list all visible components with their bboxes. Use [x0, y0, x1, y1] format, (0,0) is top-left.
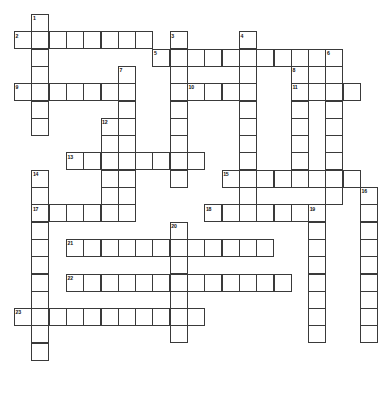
crossword-cell[interactable]	[343, 170, 361, 188]
crossword-cell[interactable]	[31, 204, 49, 222]
crossword-cell[interactable]	[83, 239, 101, 257]
crossword-cell[interactable]	[187, 274, 205, 292]
crossword-cell[interactable]	[239, 66, 257, 84]
crossword-cell[interactable]	[83, 152, 101, 170]
crossword-cell[interactable]	[308, 49, 326, 67]
crossword-cell[interactable]	[325, 49, 343, 67]
crossword-cell[interactable]	[170, 291, 188, 309]
crossword-cell[interactable]	[170, 170, 188, 188]
crossword-cell[interactable]	[83, 83, 101, 101]
crossword-cell[interactable]	[170, 101, 188, 119]
crossword-cell[interactable]	[187, 83, 205, 101]
crossword-cell[interactable]	[152, 274, 170, 292]
crossword-cell[interactable]	[135, 274, 153, 292]
crossword-cell[interactable]	[118, 152, 136, 170]
crossword-cell[interactable]	[49, 308, 67, 326]
crossword-cell[interactable]	[101, 152, 119, 170]
crossword-cell[interactable]	[360, 187, 378, 205]
crossword-cell[interactable]	[170, 274, 188, 292]
crossword-cell[interactable]	[360, 308, 378, 326]
crossword-cell[interactable]	[135, 152, 153, 170]
crossword-cell[interactable]	[31, 118, 49, 136]
crossword-cell[interactable]	[31, 291, 49, 309]
crossword-cell[interactable]	[239, 31, 257, 49]
crossword-cell[interactable]	[14, 31, 32, 49]
crossword-cell[interactable]	[31, 187, 49, 205]
crossword-cell[interactable]	[118, 66, 136, 84]
crossword-cell[interactable]	[118, 135, 136, 153]
crossword-cell[interactable]	[291, 101, 309, 119]
crossword-cell[interactable]	[152, 49, 170, 67]
crossword-cell[interactable]	[31, 274, 49, 292]
crossword-cell[interactable]	[49, 31, 67, 49]
crossword-cell[interactable]	[118, 187, 136, 205]
crossword-cell[interactable]	[118, 31, 136, 49]
crossword-cell[interactable]	[239, 101, 257, 119]
crossword-cell[interactable]	[83, 308, 101, 326]
crossword-cell[interactable]	[170, 135, 188, 153]
crossword-cell[interactable]	[170, 49, 188, 67]
crossword-cell[interactable]	[204, 204, 222, 222]
crossword-cell[interactable]	[308, 325, 326, 343]
crossword-cell[interactable]	[31, 325, 49, 343]
crossword-cell[interactable]	[308, 222, 326, 240]
crossword-cell[interactable]	[325, 101, 343, 119]
crossword-cell[interactable]	[291, 66, 309, 84]
crossword-cell[interactable]	[83, 204, 101, 222]
crossword-cell[interactable]	[360, 222, 378, 240]
crossword-cell[interactable]	[239, 135, 257, 153]
crossword-cell[interactable]	[325, 118, 343, 136]
crossword-cell[interactable]	[118, 274, 136, 292]
crossword-cell[interactable]	[291, 170, 309, 188]
crossword-cell[interactable]	[239, 204, 257, 222]
crossword-cell[interactable]	[308, 291, 326, 309]
crossword-cell[interactable]	[66, 239, 84, 257]
crossword-cell[interactable]	[118, 170, 136, 188]
crossword-cell[interactable]	[274, 204, 292, 222]
crossword-cell[interactable]	[170, 152, 188, 170]
crossword-cell[interactable]	[31, 66, 49, 84]
crossword-cell[interactable]	[360, 291, 378, 309]
crossword-cell[interactable]	[83, 31, 101, 49]
crossword-cell[interactable]	[66, 204, 84, 222]
crossword-cell[interactable]	[239, 49, 257, 67]
crossword-cell[interactable]	[83, 274, 101, 292]
crossword-cell[interactable]	[222, 204, 240, 222]
crossword-cell[interactable]	[118, 83, 136, 101]
crossword-cell[interactable]	[135, 308, 153, 326]
crossword-cell[interactable]	[360, 239, 378, 257]
crossword-cell[interactable]	[118, 101, 136, 119]
crossword-cell[interactable]	[274, 274, 292, 292]
crossword-cell[interactable]	[222, 170, 240, 188]
crossword-cell[interactable]	[31, 308, 49, 326]
crossword-cell[interactable]	[325, 135, 343, 153]
crossword-cell[interactable]	[222, 49, 240, 67]
crossword-cell[interactable]	[291, 49, 309, 67]
crossword-cell[interactable]	[222, 83, 240, 101]
crossword-cell[interactable]	[31, 256, 49, 274]
crossword-cell[interactable]	[152, 152, 170, 170]
crossword-cell[interactable]	[170, 118, 188, 136]
crossword-cell[interactable]	[343, 83, 361, 101]
crossword-cell[interactable]	[170, 222, 188, 240]
crossword-cell[interactable]	[31, 239, 49, 257]
crossword-cell[interactable]	[101, 31, 119, 49]
crossword-cell[interactable]	[101, 170, 119, 188]
crossword-cell[interactable]	[118, 239, 136, 257]
crossword-cell[interactable]	[187, 49, 205, 67]
crossword-cell[interactable]	[101, 274, 119, 292]
crossword-cell[interactable]	[239, 170, 257, 188]
crossword-cell[interactable]	[256, 239, 274, 257]
crossword-cell[interactable]	[152, 239, 170, 257]
crossword-cell[interactable]	[31, 170, 49, 188]
crossword-cell[interactable]	[222, 274, 240, 292]
crossword-cell[interactable]	[325, 187, 343, 205]
crossword-grid[interactable]: 1234567891011121314151617181920212223	[0, 0, 383, 414]
crossword-cell[interactable]	[49, 204, 67, 222]
crossword-cell[interactable]	[31, 101, 49, 119]
crossword-cell[interactable]	[31, 31, 49, 49]
crossword-cell[interactable]	[360, 204, 378, 222]
crossword-cell[interactable]	[101, 118, 119, 136]
crossword-cell[interactable]	[101, 135, 119, 153]
crossword-cell[interactable]	[256, 274, 274, 292]
